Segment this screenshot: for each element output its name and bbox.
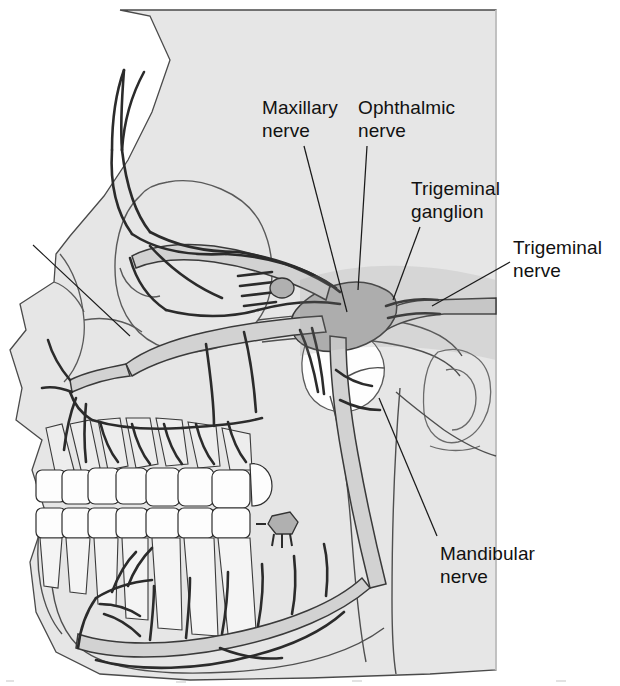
label-ophthalmic-nerve: Ophthalmicnerve xyxy=(358,96,455,142)
label-maxillary-nerve: Maxillarynerve xyxy=(262,96,338,142)
label-mandibular-nerve: Mandibularnerve xyxy=(440,542,535,588)
label-trigeminal-nerve-line-2: nerve xyxy=(513,259,602,282)
label-maxillary-nerve-line-2: nerve xyxy=(262,119,338,142)
label-maxillary-nerve-line-1: Maxillary xyxy=(262,96,338,119)
label-trigeminal-nerve-line-1: Trigeminal xyxy=(513,236,602,259)
label-ophthalmic-nerve-line-1: Ophthalmic xyxy=(358,96,455,119)
label-mandibular-nerve-line-2: nerve xyxy=(440,565,535,588)
label-trigeminal-nerve: Trigeminalnerve xyxy=(513,236,602,282)
label-trigeminal-ganglion-line-2: ganglion xyxy=(411,200,500,223)
label-trigeminal-ganglion: Trigeminalganglion xyxy=(411,177,500,223)
scan-artifact xyxy=(6,681,566,682)
pterygopalatine-ganglion xyxy=(270,278,294,298)
bone-shading xyxy=(300,266,496,360)
label-mandibular-nerve-line-1: Mandibular xyxy=(440,542,535,565)
label-ophthalmic-nerve-line-2: nerve xyxy=(358,119,455,142)
label-trigeminal-ganglion-line-1: Trigeminal xyxy=(411,177,500,200)
